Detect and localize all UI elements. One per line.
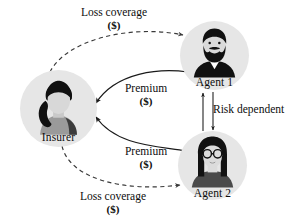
node-agent1[interactable]: Agent 1 — [180, 21, 249, 90]
node-insurer-label: Insurer — [20, 131, 97, 143]
edge-label-premium-agent1-currency: ($) — [104, 95, 188, 108]
edge-label-loss-coverage-agent1: Loss coverage ($) — [58, 6, 170, 32]
edge-label-premium-agent1-text: Premium — [104, 82, 188, 95]
edge-label-risk-dependent-text: Risk dependent — [213, 103, 297, 116]
edge-label-loss-coverage-agent2: Loss coverage ($) — [54, 190, 172, 216]
node-agent2[interactable]: Agent 2 — [178, 131, 247, 200]
edge-label-loss-coverage-agent2-text: Loss coverage — [54, 190, 172, 203]
edge-label-premium-agent1: Premium ($) — [104, 82, 188, 108]
node-insurer[interactable]: Insurer — [20, 70, 97, 147]
edge-loss-coverage-agent1 — [50, 32, 183, 72]
edge-label-premium-agent2-text: Premium — [104, 145, 188, 158]
node-agent2-label: Agent 2 — [178, 187, 247, 199]
node-agent1-label: Agent 1 — [180, 76, 249, 88]
diagram-canvas: Insurer Agent 1 — [0, 0, 297, 223]
edge-label-premium-agent2-currency: ($) — [104, 158, 188, 171]
edge-label-loss-coverage-agent1-text: Loss coverage — [58, 6, 170, 19]
edge-label-premium-agent2: Premium ($) — [104, 145, 188, 171]
edge-label-loss-coverage-agent2-currency: ($) — [54, 203, 172, 216]
edge-label-risk-dependent: Risk dependent — [213, 103, 297, 116]
edge-label-loss-coverage-agent1-currency: ($) — [58, 19, 170, 32]
